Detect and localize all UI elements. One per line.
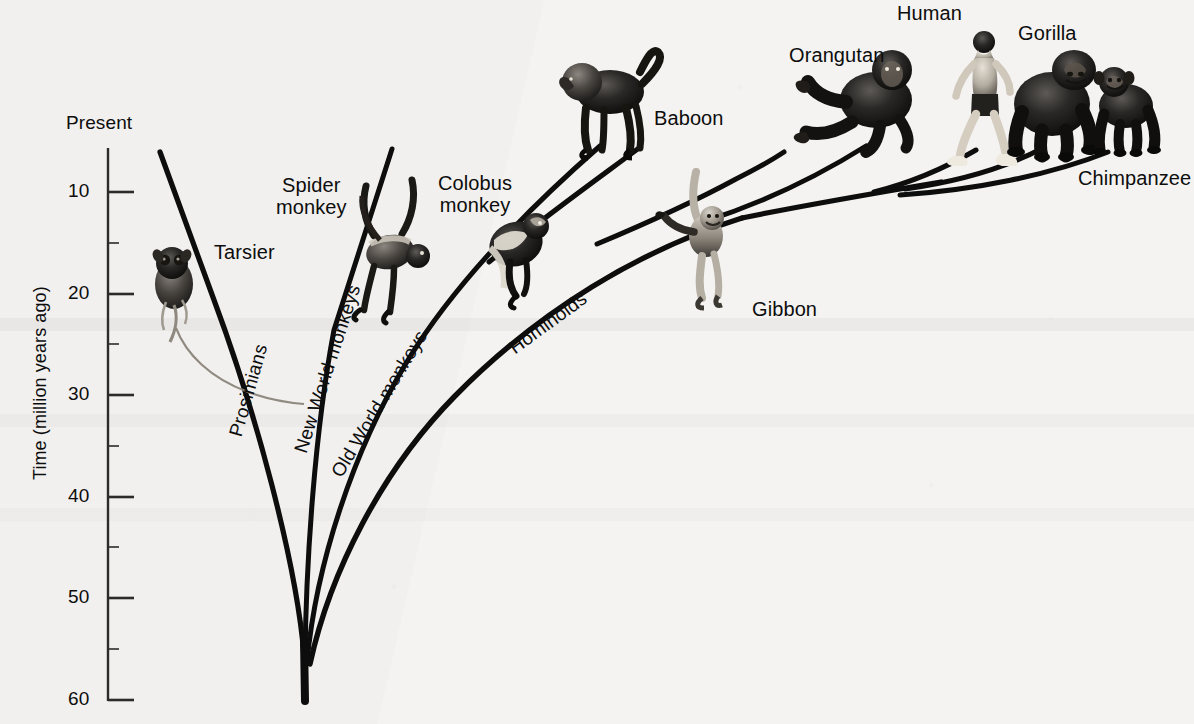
phylogenetic-tree-figure [0, 0, 1194, 724]
tarsier-image [151, 247, 304, 404]
gorilla-image [1007, 50, 1099, 162]
time-axis [108, 148, 134, 701]
axis-tick-label-20: 20 [68, 282, 89, 303]
axis-tick-label-60: 60 [68, 688, 89, 709]
spider-monkey-image [354, 180, 430, 323]
branch-old-world-monkeys [307, 146, 600, 662]
taxon-label-chimpanzee: Chimpanzee [1078, 167, 1191, 189]
y-axis-title: Time (million years ago) [30, 286, 50, 480]
taxon-label-gorilla: Gorilla [1018, 22, 1077, 44]
axis-tick-label-10: 10 [68, 180, 89, 201]
taxon-label-orangutan: Orangutan [789, 44, 884, 66]
chimpanzee-image [1093, 67, 1161, 157]
taxon-label-baboon: Baboon [654, 107, 724, 129]
taxon-label-tarsier: Tarsier [214, 241, 275, 263]
present-label: Present [66, 112, 132, 133]
taxon-label-spider-monkey: Spider monkey [276, 174, 347, 219]
branch-prosimians [160, 152, 304, 655]
human-image [947, 31, 1017, 166]
axis-tick-label-30: 30 [68, 383, 89, 404]
axis-tick-label-40: 40 [68, 485, 89, 506]
baboon-image [559, 51, 660, 158]
taxon-label-human: Human [897, 2, 962, 24]
axis-tick-label-50: 50 [68, 586, 89, 607]
taxon-label-gibbon: Gibbon [752, 298, 817, 320]
taxon-label-colobus-monkey: Colobus monkey [438, 172, 512, 217]
